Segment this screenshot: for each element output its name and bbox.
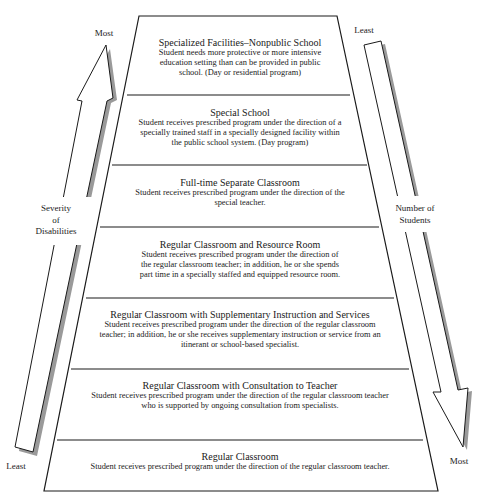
level-title: Full-time Separate Classroom bbox=[40, 177, 440, 188]
severity-most-label: Most bbox=[95, 28, 114, 38]
level-description-line: school. (Day or residential program) bbox=[40, 68, 440, 78]
level-supplementary-instruction: Regular Classroom with Supplementary Ins… bbox=[40, 309, 440, 350]
level-specialized-facilities: Specialized Facilities–Nonpublic School … bbox=[40, 37, 440, 78]
level-description-line: Student needs more protective or more in… bbox=[40, 48, 440, 58]
level-title: Special School bbox=[40, 107, 440, 118]
level-title: Regular Classroom with Supplementary Ins… bbox=[40, 309, 440, 320]
level-resource-room: Regular Classroom and Resource Room Stud… bbox=[40, 239, 440, 280]
level-description-line: Student receives prescribed program unde… bbox=[40, 250, 440, 260]
students-least-label: Least bbox=[354, 25, 374, 35]
level-description-line: Student receives prescribed program unde… bbox=[40, 118, 440, 128]
level-title: Regular Classroom bbox=[40, 451, 440, 462]
level-description-line: Student receives prescribed program unde… bbox=[40, 462, 440, 472]
students-most-label: Most bbox=[450, 456, 469, 466]
level-title: Regular Classroom and Resource Room bbox=[40, 239, 440, 250]
axis-label-line: Severity bbox=[16, 203, 96, 215]
axis-label-line: Students bbox=[375, 215, 455, 227]
level-special-school: Special School Student receives prescrib… bbox=[40, 107, 440, 148]
level-regular-classroom: Regular Classroom Student receives presc… bbox=[40, 451, 440, 472]
level-description-line: teacher; in addition, he or she receives… bbox=[40, 330, 440, 340]
level-description-line: part time in a specially staffed and equ… bbox=[40, 270, 440, 280]
level-description-line: the regular classroom teacher; in additi… bbox=[40, 260, 440, 270]
number-of-students-label: Number of Students bbox=[375, 203, 455, 226]
level-description-line: Student receives prescribed program unde… bbox=[40, 391, 440, 401]
axis-label-line: of bbox=[16, 215, 96, 227]
level-title: Regular Classroom with Consultation to T… bbox=[40, 380, 440, 391]
level-description-line: education setting than can be provided i… bbox=[40, 58, 440, 68]
level-description-line: the public school system. (Day program) bbox=[40, 138, 440, 148]
level-description-line: Student receives prescribed program unde… bbox=[40, 320, 440, 330]
axis-label-line: Number of bbox=[375, 203, 455, 215]
level-description-line: Student receives prescribed program unde… bbox=[40, 188, 440, 198]
axis-label-line: Disabilities bbox=[16, 226, 96, 238]
special-education-continuum-diagram: Specialized Facilities–Nonpublic School … bbox=[0, 0, 487, 503]
severity-of-disabilities-label: Severity of Disabilities bbox=[16, 203, 96, 238]
level-consultation-to-teacher: Regular Classroom with Consultation to T… bbox=[40, 380, 440, 411]
level-description-line: who is supported by ongoing consultation… bbox=[40, 401, 440, 411]
level-description-line: itinerant or school-based specialist. bbox=[40, 340, 440, 350]
level-description-line: specially trained staff in a specially d… bbox=[40, 128, 440, 138]
level-title: Specialized Facilities–Nonpublic School bbox=[40, 37, 440, 48]
severity-least-label: Least bbox=[6, 461, 26, 471]
